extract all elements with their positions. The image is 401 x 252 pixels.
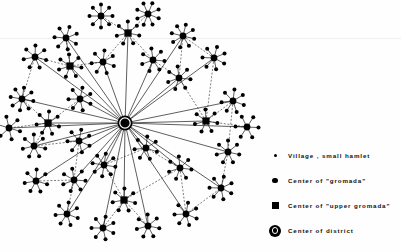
village-node xyxy=(23,137,27,141)
inter-cluster-link xyxy=(36,180,74,181)
village-node xyxy=(213,111,217,115)
village-node xyxy=(79,128,83,132)
hub-spoke xyxy=(80,99,125,123)
village-node xyxy=(15,118,19,122)
village-node xyxy=(135,227,139,231)
village-node xyxy=(146,213,150,217)
village-node xyxy=(41,137,45,141)
village-node xyxy=(109,172,113,176)
village-node xyxy=(80,86,84,90)
village-node xyxy=(239,135,243,139)
village-node xyxy=(91,161,95,165)
village-node xyxy=(57,125,61,129)
inter-cluster-link xyxy=(103,33,128,62)
inter-cluster-link xyxy=(34,141,79,146)
village-node xyxy=(88,14,92,18)
village-node xyxy=(215,121,219,125)
village-node xyxy=(18,129,22,133)
village-node xyxy=(209,129,213,133)
village-node xyxy=(112,64,116,68)
village-node xyxy=(173,87,177,91)
village-node xyxy=(79,66,83,70)
village-node xyxy=(66,139,70,143)
gromada-node xyxy=(6,125,13,132)
village-node xyxy=(68,223,72,227)
village-node xyxy=(168,160,172,164)
legend-item-upper-gromada: Center of "upper gromada" xyxy=(262,193,401,218)
village-node xyxy=(57,67,61,71)
gromada-node xyxy=(150,57,157,64)
village-node xyxy=(21,147,25,151)
hub-spoke xyxy=(125,78,179,123)
hub-spoke xyxy=(66,38,125,123)
gromada-node xyxy=(145,11,152,18)
village-node xyxy=(79,187,83,191)
village-node xyxy=(157,68,161,72)
village-node xyxy=(133,201,137,205)
village-node xyxy=(95,154,99,158)
inter-cluster-link xyxy=(48,99,80,123)
village-node xyxy=(148,157,152,161)
village-node xyxy=(91,22,95,26)
village-node xyxy=(113,165,117,169)
village-node xyxy=(229,181,233,185)
village-node xyxy=(27,154,31,158)
village-node xyxy=(99,3,103,7)
village-node xyxy=(141,52,145,56)
village-node xyxy=(235,143,239,147)
village-node xyxy=(80,150,84,154)
village-node xyxy=(157,226,161,230)
village-node xyxy=(47,110,51,114)
village-node xyxy=(229,191,233,195)
village-node xyxy=(131,41,135,45)
village-node xyxy=(74,42,78,46)
village-node xyxy=(176,65,180,69)
upper-gromada-node xyxy=(120,196,127,203)
village-node xyxy=(191,28,195,32)
village-node xyxy=(28,189,32,193)
village-node xyxy=(187,44,191,48)
village-node xyxy=(67,53,71,57)
village-node xyxy=(104,237,108,241)
village-node xyxy=(201,56,205,60)
village-node xyxy=(99,26,103,30)
gromada-node xyxy=(145,223,152,230)
village-node xyxy=(195,216,199,220)
village-node xyxy=(137,217,141,221)
village-node xyxy=(175,24,179,28)
village-node xyxy=(151,234,155,238)
village-node xyxy=(145,135,149,139)
village-node xyxy=(135,24,139,28)
village-node xyxy=(157,8,161,12)
hub-spoke xyxy=(125,123,247,127)
village-node xyxy=(173,213,177,217)
village-node xyxy=(113,190,117,194)
village-node xyxy=(142,23,146,27)
village-node xyxy=(142,1,146,5)
village-node xyxy=(94,235,98,239)
village-node xyxy=(186,158,190,162)
village-node xyxy=(171,40,175,44)
upper-gromada-node xyxy=(44,119,51,126)
village-node xyxy=(66,47,70,51)
village-node xyxy=(111,156,115,160)
upper-gromada-node xyxy=(66,62,73,69)
gromada-node xyxy=(98,13,105,20)
inter-cluster-link xyxy=(104,165,124,200)
village-node xyxy=(126,20,130,24)
village-node xyxy=(188,77,192,81)
village-node xyxy=(235,110,239,114)
village-node xyxy=(90,61,94,65)
hub-spoke xyxy=(22,99,125,123)
village-node xyxy=(83,179,87,183)
village-node xyxy=(117,24,121,28)
village-node xyxy=(10,137,14,141)
village-node xyxy=(76,56,80,60)
village-node xyxy=(115,34,119,38)
village-node xyxy=(231,160,235,164)
village-node xyxy=(237,153,241,157)
legend-item-district: Center of district xyxy=(262,218,401,243)
village-node xyxy=(38,66,42,70)
village-node xyxy=(176,203,180,207)
village-node xyxy=(57,204,61,208)
